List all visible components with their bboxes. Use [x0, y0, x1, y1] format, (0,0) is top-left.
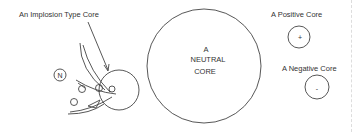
n-marker: N — [54, 69, 66, 81]
negative-core-group: A Negative Core - — [282, 64, 337, 99]
minus-icon: - — [316, 85, 319, 92]
positive-core-group: A Positive Core + — [271, 10, 322, 48]
neutral-core-line-1: A — [203, 45, 208, 54]
implosion-core-group: An Implosion Type Core N — [19, 10, 139, 114]
pointer-arrow-icon — [88, 22, 109, 71]
plus-icon: + — [298, 34, 302, 41]
neutral-core-line-2: NEUTRAL — [190, 55, 225, 64]
core-types-diagram: An Implosion Type Core N — [0, 0, 359, 132]
negative-core-label: A Negative Core — [282, 64, 337, 73]
positive-core-label: A Positive Core — [271, 10, 322, 19]
neutral-core-line-3: CORE — [194, 67, 216, 76]
page-edge-divider — [351, 0, 352, 132]
implosion-core-label: An Implosion Type Core — [19, 10, 99, 19]
neutral-core-group: A NEUTRAL CORE — [147, 9, 261, 123]
neutral-core-circle — [147, 9, 261, 123]
n-marker-text: N — [57, 72, 62, 79]
implosion-swirl-icon — [68, 43, 116, 114]
